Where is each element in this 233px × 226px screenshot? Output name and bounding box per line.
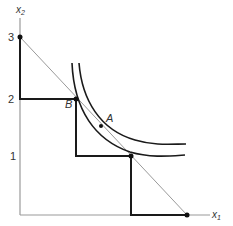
indifference-curve-diagram: x2 x1 3 2 1 B A — [0, 0, 233, 226]
tick-label-3: 3 — [8, 31, 14, 43]
budget-line — [20, 37, 187, 215]
y-axis-label: x2 — [15, 4, 25, 16]
point-on-x-axis — [185, 213, 190, 218]
point-1-step — [129, 154, 134, 159]
point-label-A: A — [105, 112, 113, 124]
tick-label-1: 1 — [10, 150, 16, 162]
x-axis-label: x1 — [211, 209, 221, 221]
point-A — [99, 124, 103, 128]
point-label-B: B — [65, 98, 72, 110]
tick-label-2: 2 — [8, 93, 14, 105]
point-B — [74, 97, 79, 102]
indifference-curve-inner — [72, 63, 185, 156]
indifference-curve-outer — [79, 63, 186, 144]
point-3-on-y-axis — [18, 35, 23, 40]
